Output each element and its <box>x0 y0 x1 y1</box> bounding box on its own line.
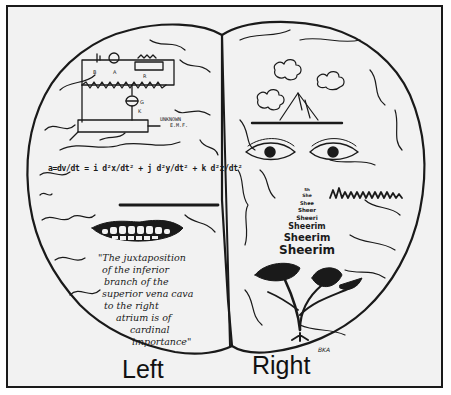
circuit-diagram <box>70 53 174 140</box>
left-label: Left <box>122 355 164 384</box>
word-pyramid: Sh She Shee Sheer Sheeri Sheerim Sheerim… <box>262 188 352 256</box>
flowering-plant <box>255 263 362 341</box>
clouds-and-mountain <box>252 60 344 123</box>
circuit-annotation: UNKNOWN E.M.F. <box>160 116 188 128</box>
circuit-label-a: A <box>113 69 117 75</box>
pyramid-word: Sheerim <box>262 223 352 231</box>
quote-line: branch of the <box>98 276 238 288</box>
quote-line: importance" <box>98 336 238 348</box>
pyramid-word: Shee <box>262 201 352 206</box>
quote-line: to the right <box>98 300 238 312</box>
pyramid-word: She <box>262 194 352 199</box>
annotation-line-2: E.M.F. <box>160 122 188 128</box>
pyramid-word: Sheerim <box>262 233 352 243</box>
quote-line: atrium is of <box>98 312 238 324</box>
circuit-label-r: R <box>143 73 147 79</box>
right-label: Right <box>252 351 310 380</box>
quote-line: of the inferior <box>98 264 238 276</box>
pyramid-word: Sheerim <box>262 244 352 256</box>
pair-of-eyes <box>246 139 358 160</box>
equation: a=dv/dt = i d²x/dt² + j d²y/dt² + k d²z/… <box>48 164 242 173</box>
quote-line: "The juxtaposition <box>98 252 238 264</box>
quote-line: superior vena cava <box>98 288 238 300</box>
circuit-label-k: K <box>138 108 142 114</box>
pyramid-word: Sheeri <box>262 215 352 221</box>
circuit-label-g: G <box>140 99 144 105</box>
pyramid-word: Sheer <box>262 208 352 214</box>
quote-text: "The juxtaposition of the inferior branc… <box>98 252 238 348</box>
artist-signature: BKA <box>318 346 330 353</box>
circuit-label-b: B <box>93 69 97 75</box>
quote-line: cardinal <box>98 324 238 336</box>
smiling-mouth <box>92 220 183 241</box>
pyramid-word: Sh <box>262 188 352 192</box>
